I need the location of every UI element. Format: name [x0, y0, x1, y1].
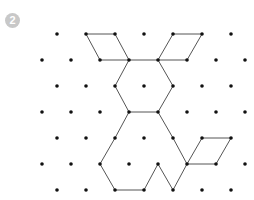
- grid-dot: [69, 110, 73, 114]
- grid-dot: [84, 84, 88, 88]
- grid-dot: [229, 84, 233, 88]
- grid-dot: [127, 58, 131, 62]
- grid-dot: [200, 32, 204, 36]
- grid-dot: [55, 136, 59, 140]
- grid-dot: [40, 162, 44, 166]
- grid-dot: [113, 188, 117, 192]
- shape-outline: [86, 34, 129, 60]
- grid-dot: [84, 32, 88, 36]
- grid-dot: [69, 162, 73, 166]
- grid-dot: [55, 188, 59, 192]
- grid-dot: [113, 84, 117, 88]
- grid-dot: [156, 110, 160, 114]
- grid-dot: [185, 162, 189, 166]
- grid-dot: [200, 84, 204, 88]
- grid-dot: [142, 32, 146, 36]
- grid-dot: [156, 162, 160, 166]
- grid-dot: [127, 110, 131, 114]
- grid-dot: [84, 136, 88, 140]
- grid-dot: [229, 136, 233, 140]
- grid-dot: [69, 58, 73, 62]
- grid-dot: [127, 162, 131, 166]
- grid-dot: [171, 84, 175, 88]
- isometric-dot-grid-diagram: [0, 0, 254, 200]
- grid-dot: [243, 162, 247, 166]
- grid-dot: [185, 58, 189, 62]
- grid-dot: [229, 188, 233, 192]
- grid-dot: [156, 58, 160, 62]
- grid-dot: [214, 58, 218, 62]
- grid-dot: [171, 188, 175, 192]
- grid-dot: [214, 110, 218, 114]
- grid-dot: [113, 32, 117, 36]
- grid-dot: [243, 110, 247, 114]
- grid-dot: [200, 188, 204, 192]
- grid-dot: [113, 136, 117, 140]
- grid-dot: [84, 188, 88, 192]
- grid-dot: [98, 58, 102, 62]
- grid-dot: [214, 162, 218, 166]
- grid-dot: [98, 162, 102, 166]
- grid-dot: [171, 32, 175, 36]
- grid-dot: [40, 110, 44, 114]
- grid-dot: [55, 84, 59, 88]
- shape-outline: [158, 34, 202, 60]
- grid-dot: [142, 188, 146, 192]
- grid-dot: [142, 136, 146, 140]
- grid-dot: [243, 58, 247, 62]
- shape-outline: [187, 138, 231, 164]
- grid-dot: [171, 136, 175, 140]
- grid-dot: [142, 84, 146, 88]
- grid-dot: [200, 136, 204, 140]
- grid-dot: [185, 110, 189, 114]
- grid-dot: [98, 110, 102, 114]
- grid-dot: [55, 32, 59, 36]
- grid-dot: [40, 58, 44, 62]
- grid-dot: [229, 32, 233, 36]
- shape-outline: [100, 112, 187, 190]
